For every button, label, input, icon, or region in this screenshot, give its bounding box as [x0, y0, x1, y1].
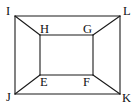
label-h: H	[40, 22, 49, 36]
label-g: G	[83, 22, 92, 36]
diagram-edges	[15, 16, 120, 94]
label-e: E	[40, 75, 48, 89]
geometry-diagram: I L H G E F J K	[0, 0, 136, 104]
edge-k-f	[93, 75, 120, 94]
edge-l-g	[93, 16, 120, 35]
label-j: J	[6, 90, 11, 104]
label-i: I	[6, 4, 10, 18]
edge-i-h	[15, 16, 40, 35]
label-f: F	[83, 75, 90, 89]
edge-j-e	[15, 75, 40, 94]
label-l: L	[123, 4, 131, 18]
label-k: K	[122, 91, 131, 104]
